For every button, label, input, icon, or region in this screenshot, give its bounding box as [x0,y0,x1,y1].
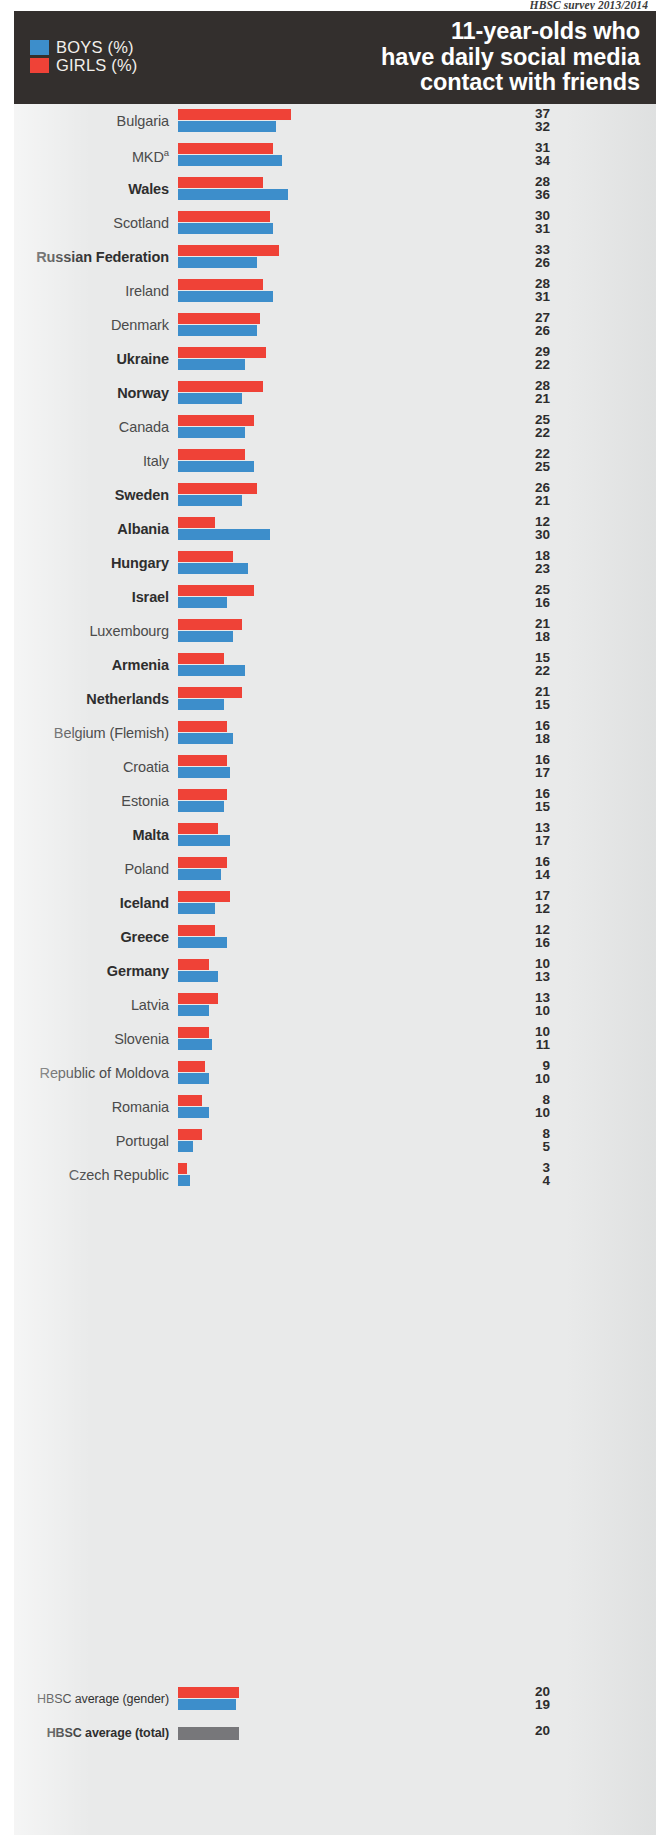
country-label: Luxembourg [14,624,178,639]
bar-group [178,856,478,882]
bar-girls [178,1027,209,1038]
country-label: Albania [14,522,178,537]
title-line-3: contact with friends [381,70,640,96]
value-pair: 85 [508,1124,550,1158]
value-boys: 15 [535,800,550,813]
bar-group [178,686,478,712]
table-row: Belgium (Flemish)1618 [14,716,656,750]
bar-boys [178,1175,190,1186]
country-label: Belgium (Flemish) [14,726,178,741]
page-title: 11-year-olds who have daily social media… [381,19,642,96]
bar-girls [178,585,254,596]
bar-boys [178,393,242,404]
bar-group [178,482,478,508]
bar-group [178,788,478,814]
title-line-2: have daily social media [381,45,640,71]
bar-boys [178,801,224,812]
country-label: Czech Republic [14,1168,178,1183]
country-label: Estonia [14,794,178,809]
averages-block: HBSC average (gender) 20 19 HBSC average… [14,1682,656,1750]
bar-group [178,414,478,440]
value-boys: 22 [535,358,550,371]
table-row: Hungary1823 [14,546,656,580]
bar-boys [178,733,233,744]
table-row: Wales2836 [14,172,656,206]
legend-swatch-girls-icon [30,58,49,73]
bar-girls [178,245,279,256]
country-label: Republic of Moldova [14,1066,178,1081]
bar-group [178,108,478,134]
table-row: Republic of Moldova910 [14,1056,656,1090]
value-boys: 16 [535,936,550,949]
source-note: HBSC survey 2013/2014 [530,0,648,10]
value-pair: 1310 [508,988,550,1022]
bar-girls [178,381,263,392]
bar-boys [178,631,233,642]
average-bar-total [178,1727,239,1740]
value-boys: 14 [535,868,550,881]
bar-boys [178,427,245,438]
bar-group [178,550,478,576]
value-boys: 31 [535,222,550,235]
bar-boys [178,767,230,778]
bar-boys [178,1107,209,1118]
value-boys: 22 [535,664,550,677]
bar-girls [178,653,224,664]
bar-boys [178,563,248,574]
bar-group [178,822,478,848]
value-boys: 21 [535,494,550,507]
table-row: Armenia1522 [14,648,656,682]
value-pair: 2836 [508,172,550,206]
table-row: Scotland3031 [14,206,656,240]
value-boys: 11 [536,1038,550,1051]
bar-girls [178,755,227,766]
table-row: Luxembourg2118 [14,614,656,648]
country-label: Italy [14,454,178,469]
bar-girls [178,721,227,732]
bar-girls [178,1061,205,1072]
value-boys: 26 [535,256,550,269]
bar-boys [178,223,273,234]
bar-group [178,652,478,678]
average-gender-values: 20 19 [508,1682,550,1716]
value-boys: 31 [535,290,550,303]
country-label: Croatia [14,760,178,775]
title-line-1: 11-year-olds who [381,19,640,45]
bar-boys [178,325,257,336]
value-boys: 18 [535,630,550,643]
value-pair: 1618 [508,716,550,750]
bar-girls [178,517,215,528]
table-row: Latvia1310 [14,988,656,1022]
country-label: Slovenia [14,1032,178,1047]
value-boys: 10 [535,1004,550,1017]
value-pair: 1614 [508,852,550,886]
bar-girls [178,347,266,358]
country-label: Russian Federation [14,250,178,265]
bar-girls [178,279,263,290]
table-row: Estonia1615 [14,784,656,818]
average-total-bars [178,1720,478,1746]
bar-girls [178,789,227,800]
chart-header: BOYS (%) GIRLS (%) 11-year-olds who have… [14,11,656,104]
value-pair: 2225 [508,444,550,478]
value-boys: 34 [535,154,550,167]
bar-girls [178,449,245,460]
value-boys: 13 [535,970,550,983]
bar-boys [178,699,224,710]
bar-boys [178,461,254,472]
value-boys: 10 [535,1106,550,1119]
value-boys: 17 [535,834,550,847]
legend: BOYS (%) GIRLS (%) [30,39,138,76]
bar-group [178,618,478,644]
bar-girls [178,483,257,494]
value-pair: 2621 [508,478,550,512]
country-label: Wales [14,182,178,197]
value-pair: 3326 [508,240,550,274]
bar-boys [178,971,218,982]
country-label: Denmark [14,318,178,333]
value-pair: 2726 [508,308,550,342]
average-value-total: 20 [535,1724,550,1737]
table-row: Ireland2831 [14,274,656,308]
value-pair: 810 [508,1090,550,1124]
country-label: Latvia [14,998,178,1013]
